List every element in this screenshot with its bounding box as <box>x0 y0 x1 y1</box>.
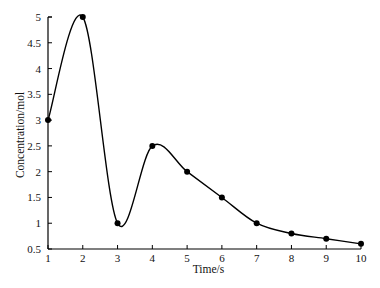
x-tick-label: 2 <box>80 252 86 264</box>
x-tick-label: 10 <box>356 252 368 264</box>
y-tick-label: 4.5 <box>27 37 41 49</box>
y-tick-label: 1.5 <box>27 191 41 203</box>
y-tick-label: 5 <box>36 11 42 23</box>
data-markers <box>45 14 364 247</box>
x-tick-label: 5 <box>184 252 190 264</box>
line-chart: 123456789100.511.522.533.544.55 Time/s C… <box>0 0 380 288</box>
x-tick-label: 3 <box>115 252 121 264</box>
data-point <box>184 169 190 175</box>
axes <box>48 17 361 249</box>
data-point <box>358 241 364 247</box>
x-tick-label: 7 <box>254 252 260 264</box>
data-point <box>219 194 225 200</box>
y-tick-label: 2 <box>36 166 42 178</box>
y-tick-label: 2.5 <box>27 140 41 152</box>
data-point <box>80 14 86 20</box>
y-tick-label: 0.5 <box>27 243 41 255</box>
data-point <box>288 231 294 237</box>
x-tick-label: 8 <box>289 252 295 264</box>
ticks: 123456789100.511.522.533.544.55 <box>27 11 367 264</box>
y-tick-label: 4 <box>36 63 42 75</box>
x-tick-label: 4 <box>150 252 156 264</box>
data-point <box>115 220 121 226</box>
data-point <box>149 143 155 149</box>
data-point <box>254 220 260 226</box>
data-curve <box>48 15 361 244</box>
y-tick-label: 3.5 <box>27 88 41 100</box>
x-tick-label: 9 <box>323 252 329 264</box>
y-tick-label: 1 <box>36 217 42 229</box>
x-tick-label: 1 <box>45 252 51 264</box>
y-axis-title: Concentration/mol <box>14 92 26 178</box>
data-point <box>45 117 51 123</box>
y-tick-label: 3 <box>36 114 42 126</box>
data-point <box>323 236 329 242</box>
x-axis-title: Time/s <box>193 263 225 275</box>
